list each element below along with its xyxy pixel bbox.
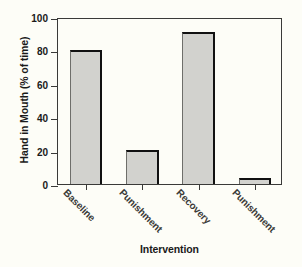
bars-layer [58, 19, 281, 184]
y-axis-tick: 60 [51, 86, 58, 87]
x-axis-tick-label: Recovery [174, 187, 213, 226]
y-axis-tick: 80 [51, 52, 58, 53]
x-axis-title: Intervention [57, 243, 282, 255]
bar [182, 32, 215, 184]
bar [126, 150, 159, 184]
x-axis-tick-label: Baseline [61, 187, 97, 223]
y-axis-tick: 20 [51, 153, 58, 154]
x-axis-category-labels: BaselinePunishmentRecoveryPunishment [57, 187, 282, 245]
x-axis-tick-label: Punishment [230, 187, 278, 235]
bar [70, 50, 103, 184]
y-axis-tick: 100 [51, 19, 58, 20]
y-axis-tick-label: 60 [37, 80, 48, 91]
y-axis-title: Hand in Mouth (% of time) [18, 15, 30, 185]
plot-area: 020406080100 [57, 18, 282, 185]
y-axis-tick: 40 [51, 119, 58, 120]
y-axis-tick-label: 20 [37, 147, 48, 158]
x-axis-tick-label: Punishment [118, 187, 166, 235]
y-axis-tick-label: 80 [37, 46, 48, 57]
bar-chart: Hand in Mouth (% of time) 020406080100 B… [0, 0, 302, 267]
y-axis-tick-label: 0 [42, 180, 48, 191]
y-axis-tick-label: 100 [31, 13, 48, 24]
y-axis-tick-label: 40 [37, 113, 48, 124]
